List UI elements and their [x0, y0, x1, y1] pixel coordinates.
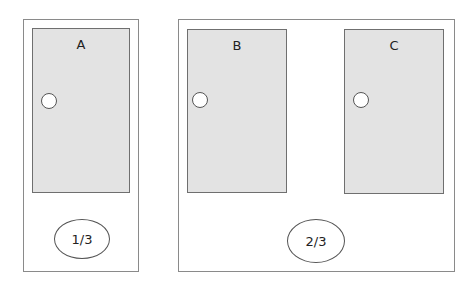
- door-knob-icon: [41, 93, 57, 109]
- fraction-label-left: 1/3: [72, 232, 93, 247]
- fraction-ellipse-right: 2/3: [287, 219, 345, 263]
- door-a: A: [32, 28, 130, 193]
- door-knob-icon: [353, 92, 369, 108]
- group-right-box: B C 2/3: [178, 19, 455, 272]
- door-knob-icon: [192, 92, 208, 108]
- door-label-b: B: [188, 38, 286, 53]
- door-label-c: C: [345, 38, 443, 53]
- group-left-box: A 1/3: [23, 19, 139, 272]
- fraction-ellipse-left: 1/3: [54, 219, 110, 259]
- fraction-label-right: 2/3: [306, 234, 327, 249]
- door-b: B: [187, 29, 287, 193]
- door-c: C: [344, 29, 444, 194]
- door-label-a: A: [33, 37, 129, 52]
